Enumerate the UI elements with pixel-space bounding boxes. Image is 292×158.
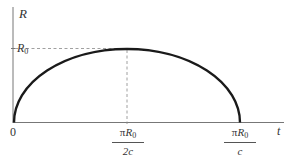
x-tick-mid-numerator: πR0 xyxy=(112,127,144,143)
x-tick-end-numerator: πR0 xyxy=(224,127,256,143)
y-tick-label-r0: R0 xyxy=(17,42,28,56)
x-tick-label-mid: πR0 2c xyxy=(112,127,144,157)
y-axis-label: R xyxy=(19,7,27,20)
x-tick-label-origin: 0 xyxy=(10,126,16,138)
x-axis-label: t xyxy=(277,125,280,137)
x-tick-label-end: πR0 c xyxy=(224,127,256,157)
r-sub: 0 xyxy=(244,131,248,140)
x-tick-end-denominator: c xyxy=(224,143,256,157)
r0-sub: 0 xyxy=(24,47,28,56)
r-sub: 0 xyxy=(132,131,136,140)
x-tick-mid-denominator: 2c xyxy=(112,143,144,157)
